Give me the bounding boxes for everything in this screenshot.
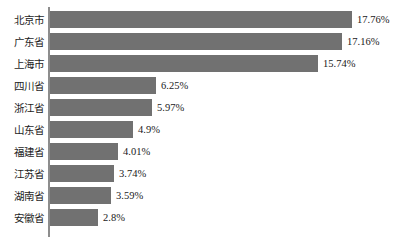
bar-value-label: 3.74% bbox=[114, 165, 146, 182]
bar-value-label: 2.8% bbox=[98, 209, 125, 226]
bar-value-label: 4.9% bbox=[133, 121, 160, 138]
bar-track: 15.74% bbox=[50, 55, 399, 72]
bar-row: 上海市15.74% bbox=[0, 53, 399, 75]
bar[interactable] bbox=[50, 55, 318, 72]
bar-row: 四川省6.25% bbox=[0, 75, 399, 97]
bar-row: 安徽省2.8% bbox=[0, 207, 399, 229]
category-label: 浙江省 bbox=[0, 97, 44, 119]
bar-track: 4.9% bbox=[50, 121, 399, 138]
category-label: 广东省 bbox=[0, 31, 44, 53]
bar-value-label: 17.16% bbox=[342, 33, 379, 50]
bar-track: 6.25% bbox=[50, 77, 399, 94]
category-label: 湖南省 bbox=[0, 185, 44, 207]
bar-row: 北京市17.76% bbox=[0, 9, 399, 31]
bar-row: 山东省4.9% bbox=[0, 119, 399, 141]
bar[interactable] bbox=[50, 99, 152, 116]
bar-row: 福建省4.01% bbox=[0, 141, 399, 163]
bar[interactable] bbox=[50, 209, 98, 226]
bar-rows-container: 北京市17.76%广东省17.16%上海市15.74%四川省6.25%浙江省5.… bbox=[0, 9, 399, 229]
bar-track: 17.16% bbox=[50, 33, 399, 50]
bar-value-label: 4.01% bbox=[118, 143, 150, 160]
bar[interactable] bbox=[50, 33, 342, 50]
bar-track: 17.76% bbox=[50, 11, 399, 28]
bar-track: 5.97% bbox=[50, 99, 399, 116]
bar-value-label: 17.76% bbox=[352, 11, 389, 28]
bar-row: 湖南省3.59% bbox=[0, 185, 399, 207]
bar[interactable] bbox=[50, 165, 114, 182]
bar[interactable] bbox=[50, 11, 352, 28]
bar-track: 2.8% bbox=[50, 209, 399, 226]
bar-track: 4.01% bbox=[50, 143, 399, 160]
bar[interactable] bbox=[50, 77, 156, 94]
category-label: 山东省 bbox=[0, 119, 44, 141]
category-label: 上海市 bbox=[0, 53, 44, 75]
category-label: 北京市 bbox=[0, 9, 44, 31]
bar-row: 广东省17.16% bbox=[0, 31, 399, 53]
bar[interactable] bbox=[50, 187, 111, 204]
bar-value-label: 6.25% bbox=[156, 77, 188, 94]
bar-value-label: 3.59% bbox=[111, 187, 143, 204]
bar-value-label: 15.74% bbox=[318, 55, 355, 72]
bar-track: 3.59% bbox=[50, 187, 399, 204]
bar-row: 浙江省5.97% bbox=[0, 97, 399, 119]
category-label: 安徽省 bbox=[0, 207, 44, 229]
category-label: 江苏省 bbox=[0, 163, 44, 185]
bar-chart: 北京市17.76%广东省17.16%上海市15.74%四川省6.25%浙江省5.… bbox=[0, 0, 399, 244]
bar[interactable] bbox=[50, 121, 133, 138]
category-label: 四川省 bbox=[0, 75, 44, 97]
bar-track: 3.74% bbox=[50, 165, 399, 182]
bar-value-label: 5.97% bbox=[152, 99, 184, 116]
bar-row: 江苏省3.74% bbox=[0, 163, 399, 185]
category-label: 福建省 bbox=[0, 141, 44, 163]
bar[interactable] bbox=[50, 143, 118, 160]
